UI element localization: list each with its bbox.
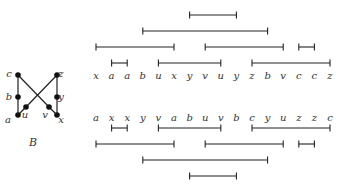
interval-bar [299,141,315,148]
top-interval-representation: xaabuxyvuyzbvccz [93,12,333,82]
graph-edge-c-v [18,75,49,107]
sequence-letter: v [218,112,224,123]
graph-node-label-x: x [58,114,64,125]
sequence-letter: x [124,112,130,123]
sequence-letter: u [218,70,224,81]
sequence-letter: a [124,70,130,81]
sequence-letter: c [249,112,255,123]
interval-bar [252,125,330,132]
sequence-letter: y [139,112,146,123]
interval-bar [112,125,128,132]
interval-bar [143,157,268,164]
graph-b: cbauvzyx [5,68,64,125]
sequence-letter: a [171,112,177,123]
sequence-letter: z [311,112,318,123]
sequence-letter: v [202,70,208,81]
sequence-letter: a [109,70,115,81]
sequence-letter: x [109,112,115,123]
interval-diagram: cbauvzyx B xaabuxyvuyzbvccz axxyvabuvbcy… [0,0,344,192]
graph-node-label-a: a [5,114,11,125]
graph-node-label-b: b [6,91,12,102]
bottom-interval-representation: axxyvabuvbcyuzzc [93,112,333,180]
sequence-letter: u [280,112,286,123]
interval-bar [190,173,237,180]
sequence-letter: y [264,112,271,123]
graph-caption: B [28,136,37,149]
sequence-letter: x [93,70,99,81]
sequence-letter: u [202,112,208,123]
interval-bar [112,60,128,67]
sequence-letter: z [295,112,302,123]
sequence-letter: b [140,70,146,81]
sequence-letter: v [156,112,162,123]
sequence-letter: c [312,70,318,81]
interval-bar [205,44,283,51]
interval-bar [252,60,330,67]
sequence-letter: u [155,70,161,81]
sequence-letter: c [327,112,333,123]
sequence-letter: c [296,70,302,81]
sequence-letter: y [233,70,240,81]
graph-node-a [15,112,21,118]
sequence-letter: b [233,112,239,123]
interval-bar [96,44,174,51]
graph-edge-z-u [26,75,57,107]
graph-node-label-y: y [57,91,64,102]
sequence-letter: a [93,112,99,123]
graph-node-c [15,72,21,78]
interval-bar [143,28,268,35]
sequence-letter: y [186,70,193,81]
graph-node-label-u: u [22,109,28,120]
sequence-letter: v [280,70,286,81]
graph-node-label-z: z [57,68,64,79]
sequence-letter: b [264,70,270,81]
graph-node-label-c: c [6,68,12,79]
interval-bar [205,141,283,148]
interval-bar [158,60,220,67]
graph-node-label-v: v [42,109,48,120]
interval-bar [96,141,174,148]
interval-bar [158,125,220,132]
sequence-letter: z [326,70,333,81]
sequence-letter: b [186,112,192,123]
sequence-letter: x [171,70,177,81]
interval-bar [190,12,237,19]
interval-bar [299,44,315,51]
graph-node-b [15,94,21,100]
sequence-letter: z [248,70,255,81]
